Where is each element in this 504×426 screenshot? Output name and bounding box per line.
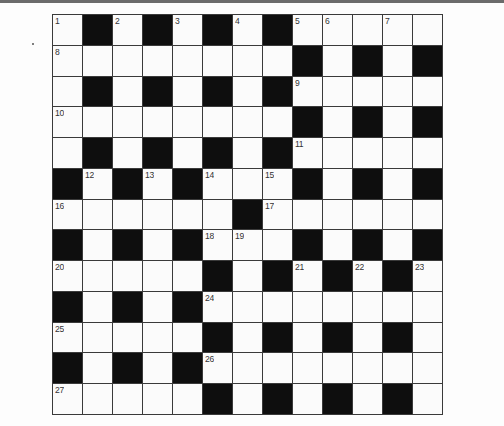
crossword-cell[interactable] <box>323 77 352 107</box>
crossword-cell[interactable] <box>263 353 292 383</box>
crossword-cell[interactable] <box>383 230 412 260</box>
crossword-cell[interactable] <box>83 200 112 230</box>
crossword-cell[interactable] <box>113 138 142 168</box>
crossword-cell[interactable] <box>113 77 142 107</box>
crossword-cell[interactable] <box>323 230 352 260</box>
crossword-cell[interactable]: 7 <box>383 15 412 45</box>
crossword-cell[interactable]: 22 <box>353 261 382 291</box>
crossword-cell[interactable] <box>83 292 112 322</box>
crossword-cell[interactable] <box>353 77 382 107</box>
crossword-cell[interactable] <box>323 292 352 322</box>
crossword-cell[interactable] <box>233 261 262 291</box>
crossword-cell[interactable] <box>233 77 262 107</box>
crossword-cell[interactable] <box>263 292 292 322</box>
crossword-cell[interactable] <box>383 107 412 137</box>
crossword-cell[interactable] <box>323 46 352 76</box>
crossword-cell[interactable] <box>173 46 202 76</box>
crossword-cell[interactable]: 15 <box>263 169 292 199</box>
crossword-cell[interactable]: 16 <box>53 200 82 230</box>
crossword-cell[interactable] <box>203 46 232 76</box>
crossword-cell[interactable] <box>143 384 172 414</box>
crossword-cell[interactable] <box>203 200 232 230</box>
crossword-cell[interactable] <box>233 384 262 414</box>
crossword-cell[interactable] <box>173 261 202 291</box>
crossword-cell[interactable] <box>323 107 352 137</box>
crossword-cell[interactable] <box>113 200 142 230</box>
crossword-cell[interactable] <box>173 77 202 107</box>
crossword-cell[interactable] <box>143 323 172 353</box>
crossword-cell[interactable] <box>413 138 442 168</box>
crossword-cell[interactable] <box>83 230 112 260</box>
crossword-cell[interactable] <box>233 138 262 168</box>
crossword-cell[interactable] <box>323 200 352 230</box>
crossword-cell[interactable]: 2 <box>113 15 142 45</box>
crossword-cell[interactable] <box>413 77 442 107</box>
crossword-cell[interactable] <box>143 261 172 291</box>
crossword-cell[interactable] <box>173 138 202 168</box>
crossword-cell[interactable] <box>113 261 142 291</box>
crossword-cell[interactable] <box>233 323 262 353</box>
crossword-cell[interactable] <box>143 46 172 76</box>
crossword-cell[interactable] <box>353 292 382 322</box>
crossword-cell[interactable] <box>143 292 172 322</box>
crossword-cell[interactable] <box>353 200 382 230</box>
crossword-cell[interactable]: 6 <box>323 15 352 45</box>
crossword-cell[interactable] <box>353 323 382 353</box>
crossword-cell[interactable] <box>263 230 292 260</box>
crossword-cell[interactable]: 27 <box>53 384 82 414</box>
crossword-cell[interactable] <box>83 261 112 291</box>
crossword-cell[interactable] <box>383 353 412 383</box>
crossword-cell[interactable]: 14 <box>203 169 232 199</box>
crossword-cell[interactable] <box>233 292 262 322</box>
crossword-cell[interactable] <box>263 107 292 137</box>
crossword-cell[interactable] <box>353 138 382 168</box>
crossword-cell[interactable] <box>173 200 202 230</box>
crossword-cell[interactable]: 20 <box>53 261 82 291</box>
crossword-cell[interactable] <box>263 46 292 76</box>
crossword-cell[interactable]: 11 <box>293 138 322 168</box>
crossword-cell[interactable] <box>113 323 142 353</box>
crossword-cell[interactable]: 18 <box>203 230 232 260</box>
crossword-cell[interactable]: 5 <box>293 15 322 45</box>
crossword-cell[interactable]: 8 <box>53 46 82 76</box>
crossword-cell[interactable] <box>293 292 322 322</box>
crossword-cell[interactable] <box>53 77 82 107</box>
crossword-cell[interactable] <box>173 107 202 137</box>
crossword-cell[interactable] <box>383 138 412 168</box>
crossword-cell[interactable] <box>143 353 172 383</box>
crossword-cell[interactable] <box>383 77 412 107</box>
crossword-cell[interactable] <box>413 200 442 230</box>
crossword-cell[interactable] <box>323 138 352 168</box>
crossword-cell[interactable] <box>143 200 172 230</box>
crossword-cell[interactable]: 1 <box>53 15 82 45</box>
crossword-cell[interactable] <box>293 200 322 230</box>
crossword-cell[interactable] <box>233 46 262 76</box>
crossword-cell[interactable]: 17 <box>263 200 292 230</box>
crossword-cell[interactable] <box>173 323 202 353</box>
crossword-cell[interactable] <box>143 230 172 260</box>
crossword-cell[interactable] <box>83 353 112 383</box>
crossword-cell[interactable] <box>383 292 412 322</box>
crossword-cell[interactable]: 9 <box>293 77 322 107</box>
crossword-cell[interactable] <box>413 353 442 383</box>
crossword-cell[interactable] <box>383 200 412 230</box>
crossword-cell[interactable] <box>323 169 352 199</box>
crossword-cell[interactable]: 13 <box>143 169 172 199</box>
crossword-cell[interactable] <box>233 107 262 137</box>
crossword-cell[interactable] <box>233 169 262 199</box>
crossword-cell[interactable] <box>413 15 442 45</box>
crossword-cell[interactable] <box>353 353 382 383</box>
crossword-cell[interactable] <box>233 353 262 383</box>
crossword-cell[interactable]: 26 <box>203 353 232 383</box>
crossword-cell[interactable] <box>413 384 442 414</box>
crossword-cell[interactable] <box>173 384 202 414</box>
crossword-cell[interactable]: 19 <box>233 230 262 260</box>
crossword-cell[interactable]: 12 <box>83 169 112 199</box>
crossword-cell[interactable] <box>413 292 442 322</box>
crossword-cell[interactable] <box>293 384 322 414</box>
crossword-cell[interactable] <box>383 46 412 76</box>
crossword-cell[interactable] <box>383 169 412 199</box>
crossword-cell[interactable]: 4 <box>233 15 262 45</box>
crossword-cell[interactable]: 21 <box>293 261 322 291</box>
crossword-cell[interactable] <box>323 353 352 383</box>
